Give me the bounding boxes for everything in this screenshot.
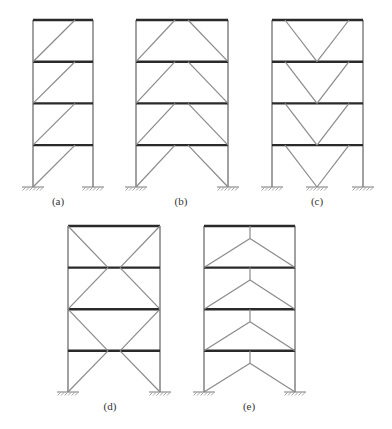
diagonal-brace-right [188, 20, 228, 62]
support-hatch [353, 188, 356, 191]
support-hatch [23, 188, 26, 191]
support-hatch [356, 188, 359, 191]
diagonal-brace [33, 103, 75, 145]
support-hatch [292, 393, 295, 396]
fixed-support-icon [22, 187, 44, 191]
diagonal-brace-left [68, 268, 108, 310]
fixed-support-icon [193, 392, 215, 396]
frame-label-b: (b) [175, 195, 188, 208]
support-hatch [93, 188, 96, 191]
support-hatch [288, 393, 291, 396]
diagonal-brace-right [250, 363, 295, 392]
support-hatch [194, 393, 197, 396]
diagonal-brace-left [136, 62, 175, 104]
support-hatch [72, 393, 75, 396]
diagonal-brace-right [317, 20, 349, 62]
fixed-support-icon [217, 187, 239, 191]
support-hatch [65, 393, 68, 396]
diagonal-brace-right [188, 62, 228, 104]
support-hatch [197, 393, 200, 396]
diagonal-brace-left [285, 103, 317, 145]
support-hatch [143, 188, 146, 191]
frame-c [261, 20, 374, 191]
diagonal-brace-left [285, 62, 317, 104]
support-hatch [314, 188, 317, 191]
support-hatch [228, 188, 231, 191]
fixed-support-icon [125, 187, 147, 191]
frame-label-a: (a) [52, 195, 65, 208]
frame-label-e: (e) [243, 400, 256, 413]
diagonal-brace [33, 20, 75, 62]
diagonal-brace-right [317, 145, 349, 187]
support-hatch [208, 393, 211, 396]
diagonal-brace-left [204, 239, 250, 268]
support-hatch [100, 188, 103, 191]
diagonal-brace-left [68, 309, 108, 351]
support-hatch [232, 188, 235, 191]
support-hatch [126, 188, 129, 191]
support-hatch [97, 188, 100, 191]
frame-b [125, 20, 239, 191]
support-hatch [279, 188, 282, 191]
fixed-support-icon [306, 187, 328, 191]
diagonal-brace-left [204, 280, 250, 309]
support-hatch [167, 393, 170, 396]
support-hatch [272, 188, 275, 191]
fixed-support-icon [261, 187, 283, 191]
frame-d [57, 226, 171, 396]
fixed-support-icon [149, 392, 171, 396]
fixed-support-icon [352, 187, 374, 191]
support-hatch [360, 188, 363, 191]
diagonal-brace [33, 62, 75, 104]
support-hatch [75, 393, 78, 396]
support-hatch [33, 188, 36, 191]
support-hatch [218, 188, 221, 191]
support-hatch [201, 393, 204, 396]
braced-frames-figure: (a) (b) (c) (d) (e) [0, 0, 392, 429]
support-hatch [276, 188, 279, 191]
diagonal-brace-right [120, 351, 160, 392]
support-hatch [317, 188, 320, 191]
frame-e [193, 226, 306, 396]
diagonal-brace-left [204, 322, 250, 351]
support-hatch [367, 188, 370, 191]
support-hatch [299, 393, 302, 396]
diagonal-brace-left [68, 351, 108, 392]
support-hatch [40, 188, 43, 191]
diagonal-brace-right [250, 322, 295, 351]
diagonal-brace-left [136, 20, 175, 62]
fixed-support-icon [57, 392, 79, 396]
support-hatch [136, 188, 139, 191]
support-hatch [211, 393, 214, 396]
support-hatch [26, 188, 29, 191]
support-hatch [302, 393, 305, 396]
support-hatch [285, 393, 288, 396]
support-hatch [157, 393, 160, 396]
diagonal-brace [33, 145, 75, 187]
support-hatch [30, 188, 33, 191]
support-hatch [37, 188, 40, 191]
support-hatch [140, 188, 143, 191]
diagonal-brace-right [250, 239, 295, 268]
diagonal-brace-right [250, 280, 295, 309]
support-hatch [307, 188, 310, 191]
support-hatch [90, 188, 93, 191]
support-hatch [153, 393, 156, 396]
support-hatch [269, 188, 272, 191]
diagonal-brace-left [285, 20, 317, 62]
support-hatch [235, 188, 238, 191]
support-hatch [150, 393, 153, 396]
support-hatch [321, 188, 324, 191]
frame-label-d: (d) [104, 400, 117, 413]
support-hatch [310, 188, 313, 191]
support-hatch [61, 393, 64, 396]
diagonal-brace-left [136, 145, 175, 187]
support-hatch [164, 393, 167, 396]
diagonal-brace-right [120, 226, 160, 268]
diagonal-brace-right [317, 103, 349, 145]
support-hatch [295, 393, 298, 396]
diagonal-brace-right [188, 145, 228, 187]
frame-a [22, 20, 104, 191]
support-hatch [262, 188, 265, 191]
support-hatch [86, 188, 89, 191]
